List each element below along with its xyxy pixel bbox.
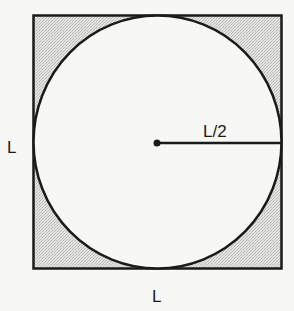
bottom-side-label: L	[152, 287, 161, 306]
center-point	[154, 140, 161, 147]
diagram-canvas: L/2 L L	[0, 0, 294, 311]
left-side-label: L	[7, 138, 16, 157]
radius-label: L/2	[203, 122, 227, 141]
